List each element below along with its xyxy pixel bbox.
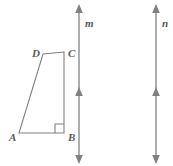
- line-m-arrowhead-bottom: [75, 155, 83, 164]
- vertex-label-a: A: [8, 131, 16, 143]
- line-n-arrowhead-middle: [152, 87, 160, 96]
- line-m-arrowhead-middle: [75, 87, 83, 96]
- line-label-n: n: [162, 17, 168, 29]
- vertex-label-c: C: [68, 47, 76, 59]
- geometry-canvas: A B C D m n: [0, 0, 173, 166]
- vertex-label-d: D: [31, 47, 40, 59]
- line-n-arrowhead-bottom: [152, 155, 160, 164]
- line-m-arrowhead-top: [75, 4, 83, 13]
- vertex-label-b: B: [67, 131, 75, 143]
- line-m-group: m: [75, 4, 94, 164]
- quadrilateral-abcd: [19, 52, 64, 133]
- geometry-figure: A B C D m n: [0, 0, 173, 166]
- line-label-m: m: [85, 17, 94, 29]
- line-n-group: n: [152, 4, 168, 164]
- right-angle-marker-b: [55, 124, 64, 133]
- line-n-arrowhead-top: [152, 4, 160, 13]
